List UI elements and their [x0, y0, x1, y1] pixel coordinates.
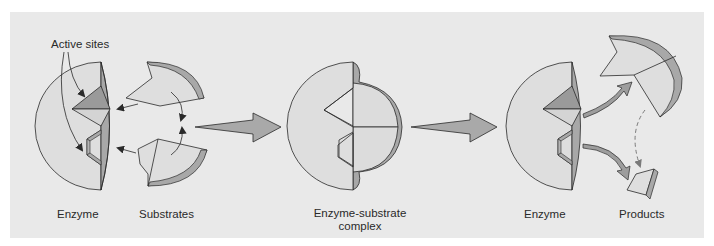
- product-large: [600, 36, 682, 117]
- label-complex-line2: complex: [339, 220, 382, 232]
- label-enzyme-left: Enzyme: [57, 208, 99, 220]
- dashed-arrow: [635, 110, 645, 166]
- release-arrow-upper: [583, 82, 632, 118]
- label-substrates: Substrates: [139, 208, 194, 220]
- substrate-upper: [126, 62, 204, 106]
- label-active-sites: Active sites: [51, 38, 109, 50]
- substrate-binding-arrow-lower: [118, 148, 136, 153]
- label-enzyme-right: Enzyme: [524, 208, 566, 220]
- label-complex-line1: Enzyme-substrate: [314, 207, 407, 219]
- product-small: [627, 169, 658, 199]
- enzyme-right: [506, 62, 581, 190]
- enzyme-diagram: Active sites: [0, 0, 714, 246]
- block-arrow-1: [195, 113, 281, 142]
- label-products: Products: [619, 208, 665, 220]
- substrate-lower: [138, 139, 207, 186]
- release-arrow-lower: [583, 144, 630, 180]
- block-arrow-2: [411, 113, 497, 142]
- substrate-binding-arrow-upper: [118, 104, 138, 109]
- enzyme-left: [35, 62, 110, 190]
- enzyme-substrate-complex: [287, 62, 402, 190]
